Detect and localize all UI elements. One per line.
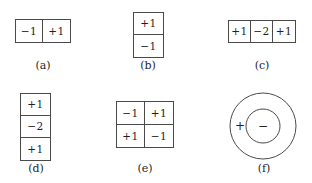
panel-label-e: (e): [115, 163, 175, 174]
stencil-cell: −1: [117, 102, 145, 125]
stencil-cell: −1: [145, 125, 173, 148]
stencil-cell: −2: [251, 21, 273, 42]
concentric-circles-diagram-f: + −: [228, 91, 298, 161]
stencil-cell: +1: [134, 13, 163, 35]
stencil-cell: +1: [145, 102, 173, 125]
stencil-cell: +1: [21, 138, 50, 160]
inner-sign-label: −: [258, 119, 268, 133]
stencil-box-c: +1 −2 +1: [228, 20, 296, 43]
concentric-circles-icon: + −: [228, 91, 298, 161]
stencil-cell: +1: [229, 21, 251, 42]
stencil-cell: +1: [21, 94, 50, 116]
stencil-cell: +1: [273, 21, 295, 42]
panel-label-a: (a): [13, 60, 73, 71]
stencil-box-b: +1 −1: [133, 12, 164, 58]
panel-label-f: (f): [234, 163, 294, 174]
stencil-box-a: −1 +1: [15, 19, 71, 43]
outer-sign-label: +: [235, 119, 245, 133]
stencil-box-e: −1 +1 +1 −1: [116, 101, 174, 148]
stencil-cell: −1: [16, 20, 43, 42]
panel-label-d: (d): [6, 163, 66, 174]
panel-label-c: (c): [232, 60, 292, 71]
stencil-cell: +1: [117, 125, 145, 148]
stencil-box-d: +1 −2 +1: [20, 93, 51, 161]
stencil-cell: −1: [134, 35, 163, 57]
panel-label-b: (b): [118, 60, 178, 71]
stencil-cell: +1: [43, 20, 70, 42]
stencil-cell: −2: [21, 116, 50, 138]
